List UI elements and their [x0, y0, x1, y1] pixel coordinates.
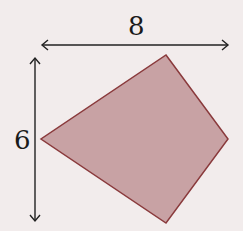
diagram-canvas	[0, 0, 243, 231]
quadrilateral-shape	[41, 55, 228, 223]
width-label: 8	[128, 13, 145, 39]
height-label: 6	[14, 127, 31, 153]
width-dimension-arrow	[42, 40, 228, 50]
height-dimension-arrow	[30, 58, 40, 221]
